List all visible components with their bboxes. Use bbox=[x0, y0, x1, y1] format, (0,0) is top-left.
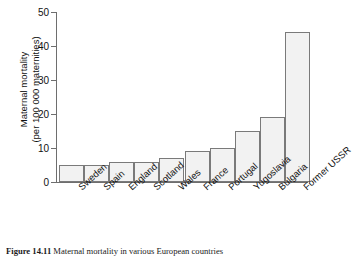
caption-text: Maternal mortality in various European c… bbox=[53, 246, 223, 256]
y-tick-label: 40 bbox=[38, 41, 49, 52]
y-tick-mark bbox=[51, 148, 56, 149]
figure-caption: Figure 14.11 Maternal mortality in vario… bbox=[6, 246, 316, 256]
y-tick-label: 50 bbox=[38, 7, 49, 18]
y-tick-mark bbox=[51, 114, 56, 115]
y-tick-label: 0 bbox=[43, 177, 49, 188]
bar-series bbox=[57, 12, 308, 182]
y-tick-mark bbox=[51, 46, 56, 47]
y-tick-mark bbox=[51, 12, 56, 13]
y-tick-label: 20 bbox=[38, 109, 49, 120]
y-tick-label: 30 bbox=[38, 75, 49, 86]
y-tick-mark bbox=[51, 80, 56, 81]
caption-label: Figure 14.11 bbox=[6, 246, 51, 256]
x-axis-labels: SwedenSpainEnglandScotlandWalesFrancePor… bbox=[56, 184, 308, 242]
y-axis-title-line1: Maternal mortality bbox=[18, 52, 29, 128]
y-tick-mark bbox=[51, 182, 56, 183]
y-tick-label: 10 bbox=[38, 143, 49, 154]
plot-area: 01020304050 bbox=[56, 12, 308, 182]
